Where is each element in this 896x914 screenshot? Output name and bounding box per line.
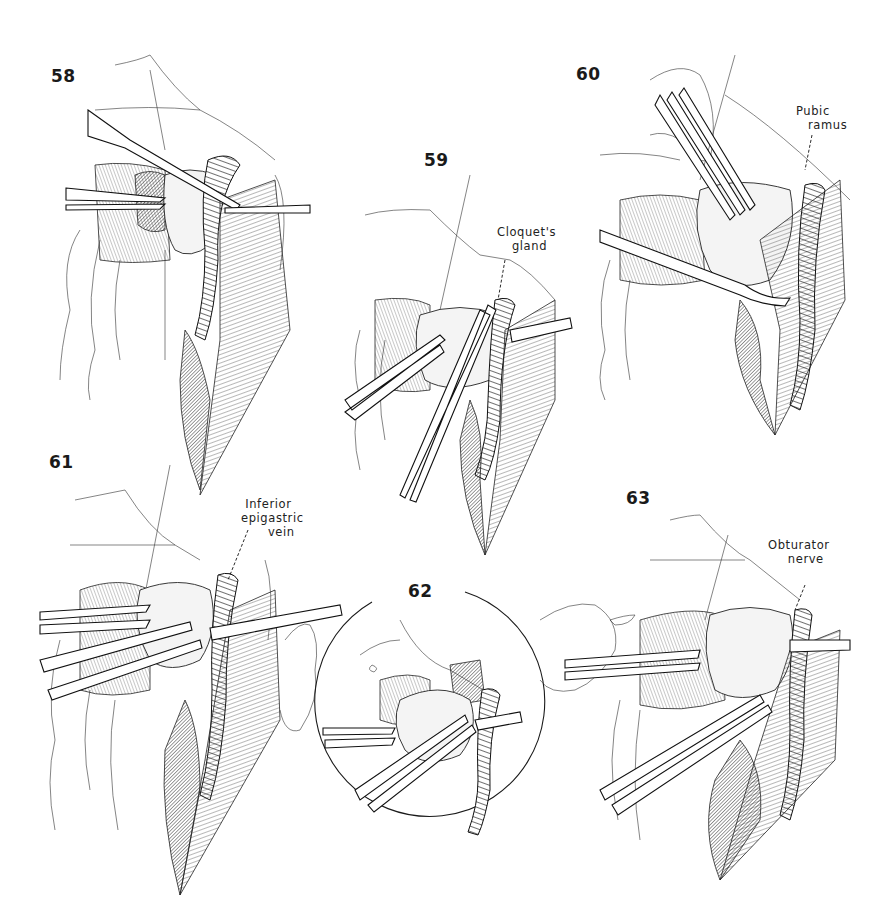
- figure-number-59: 59: [424, 150, 449, 170]
- label-line: Obturator: [768, 538, 830, 552]
- illustration-canvas: [0, 0, 896, 914]
- label-obturator-nerve: Obturator nerve: [768, 538, 830, 566]
- label-cloquets-gland: Cloquet's gland: [497, 225, 556, 253]
- label-line: gland: [503, 239, 556, 253]
- figure-62-drawing: [315, 592, 545, 835]
- label-line: Cloquet's: [497, 225, 556, 239]
- label-line: ramus: [808, 118, 847, 132]
- label-inferior-epigastric-vein: Inferior epigastric vein: [241, 497, 304, 539]
- label-line: Inferior: [233, 497, 304, 511]
- figure-number-63: 63: [626, 488, 651, 508]
- label-line: Pubic: [796, 104, 847, 118]
- figure-number-61: 61: [49, 452, 74, 472]
- label-line: nerve: [782, 552, 830, 566]
- label-line: epigastric: [241, 511, 304, 525]
- figure-58-drawing: [60, 55, 310, 495]
- figure-number-62: 62: [408, 581, 433, 601]
- figure-number-60: 60: [576, 64, 601, 84]
- label-pubic-ramus: Pubic ramus: [796, 104, 847, 132]
- figure-number-58: 58: [51, 66, 76, 86]
- label-line: vein: [259, 525, 304, 539]
- figure-63-drawing: [540, 515, 850, 880]
